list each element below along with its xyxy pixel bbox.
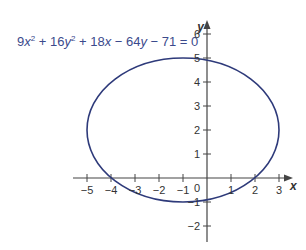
y-axis-arrow-icon <box>204 20 211 29</box>
y-tick-label: 5 <box>194 52 200 64</box>
y-axis-label: y <box>196 20 205 34</box>
y-tick-label: 3 <box>194 100 200 112</box>
y-tick-label: −2 <box>187 220 200 232</box>
axes <box>73 20 293 242</box>
x-tick-label: 2 <box>252 184 258 196</box>
x-tick-label: −4 <box>105 184 118 196</box>
x-tick-label: −3 <box>129 184 142 196</box>
y-tick-label: −1 <box>187 196 200 208</box>
x-tick-label: −5 <box>81 184 94 196</box>
x-tick-label: 3 <box>276 184 282 196</box>
y-tick-label: 2 <box>194 124 200 136</box>
y-tick-label: 1 <box>194 148 200 160</box>
x-tick-label: −2 <box>153 184 166 196</box>
origin-label: 0 <box>194 182 200 194</box>
coordinate-plane: −5−4−3−2−1123−2−11234560xy <box>0 0 306 250</box>
x-tick-label: 1 <box>228 184 234 196</box>
tick-labels: −5−4−3−2−1123−2−11234560xy <box>81 20 298 232</box>
x-axis-label: x <box>289 179 298 193</box>
y-tick-label: 4 <box>194 76 200 88</box>
x-tick-label: −1 <box>177 184 190 196</box>
